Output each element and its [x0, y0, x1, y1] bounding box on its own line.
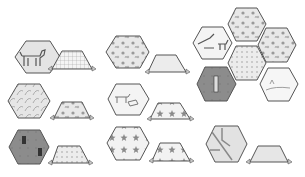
hexagon-floral [106, 36, 149, 68]
hexagon-dark-figures [9, 130, 49, 164]
trapezoid-light-floral [54, 102, 90, 118]
hexagon-floral [258, 28, 296, 62]
hexagon-animal-scene [260, 68, 298, 101]
pair-2 [106, 36, 190, 74]
figure-icon [214, 76, 218, 92]
hexagon-cluster [193, 8, 298, 101]
hexagon-star-print [107, 127, 149, 160]
trapezoid-light [250, 146, 288, 162]
hexagon-floral [228, 8, 266, 41]
figure-icon [22, 136, 26, 144]
trapezoid-dotted [52, 146, 89, 163]
pair-6 [107, 127, 194, 163]
trapezoid-star-print [150, 103, 190, 119]
pair-5 [9, 130, 93, 165]
pair-7 [206, 126, 292, 164]
hexagon-leaf-print [8, 84, 50, 118]
hexagon-light-floral [228, 46, 266, 80]
trapezoid-light [148, 55, 186, 72]
quilt-diagram [0, 0, 305, 177]
hexagon-animal-scene [108, 84, 149, 115]
pair-4 [108, 84, 194, 121]
pair-1 [15, 41, 96, 73]
figure-icon [38, 148, 42, 156]
pair-3 [8, 84, 94, 120]
trapezoid-star-print [152, 143, 190, 161]
